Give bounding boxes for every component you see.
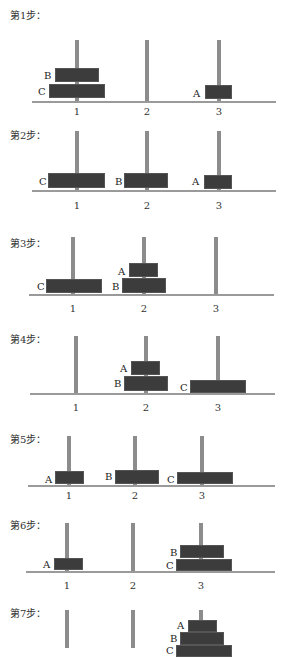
disk-a — [129, 263, 158, 277]
disk-a — [188, 620, 217, 632]
peg-rod — [145, 40, 149, 101]
disk-label: C — [166, 560, 174, 571]
disk-label: B — [44, 70, 51, 81]
disk-c — [48, 173, 105, 188]
step-label: 第3步： — [10, 235, 46, 250]
step-label: 第6步： — [10, 517, 46, 532]
base-line — [26, 571, 275, 573]
disk-label: A — [118, 266, 125, 277]
disk-c — [190, 380, 246, 393]
disk-label: C — [37, 281, 45, 292]
peg-number: 3 — [215, 402, 221, 413]
peg-number: 3 — [199, 490, 205, 501]
disk-b — [115, 470, 159, 484]
disk-label: B — [170, 547, 177, 558]
base-line — [29, 294, 274, 296]
base-line — [32, 101, 276, 103]
disk-label: A — [192, 176, 199, 187]
peg-number: 1 — [70, 303, 76, 314]
peg-number: 2 — [143, 402, 149, 413]
disk-label: A — [45, 474, 52, 485]
peg-rod — [65, 610, 69, 648]
peg-rod — [214, 237, 218, 294]
disk-a — [204, 175, 232, 189]
base-line — [32, 190, 276, 192]
disk-label: B — [114, 378, 121, 389]
disk-b — [124, 173, 168, 188]
disk-label: B — [170, 633, 177, 644]
disk-label: A — [43, 559, 50, 570]
peg-number: 1 — [73, 402, 79, 413]
peg-number: 2 — [141, 303, 147, 314]
base-line — [30, 393, 275, 395]
disk-label: C — [38, 86, 46, 97]
disk-b — [122, 278, 166, 293]
peg-number: 3 — [213, 303, 219, 314]
disk-c — [177, 472, 233, 484]
step-label: 第5步： — [10, 431, 46, 446]
disk-label: C — [180, 382, 188, 393]
disk-b — [55, 68, 99, 82]
step-label: 第7步： — [10, 605, 46, 620]
disk-label: C — [167, 474, 175, 485]
disk-a — [55, 471, 84, 484]
disk-label: B — [115, 176, 122, 187]
disk-label: C — [166, 645, 174, 656]
disk-label: A — [120, 363, 127, 374]
disk-label: B — [105, 471, 112, 482]
peg-number: 2 — [144, 106, 150, 117]
disk-label: C — [39, 176, 47, 187]
peg-rod — [131, 523, 135, 571]
peg-number: 2 — [132, 490, 138, 501]
step-label: 第1步： — [10, 7, 46, 22]
disk-c — [176, 559, 232, 571]
disk-a — [54, 558, 83, 570]
disk-c — [176, 645, 232, 657]
peg-number: 1 — [74, 106, 80, 117]
peg-number: 2 — [144, 200, 150, 211]
peg-number: 3 — [216, 106, 222, 117]
disk-c — [46, 279, 102, 293]
disk-label: A — [177, 620, 184, 631]
disk-label: B — [112, 281, 119, 292]
peg-rod — [131, 610, 135, 648]
base-line — [28, 485, 275, 487]
peg-number: 1 — [74, 200, 80, 211]
disk-label: A — [193, 88, 200, 99]
peg-number: 3 — [198, 580, 204, 591]
peg-number: 1 — [64, 580, 70, 591]
disk-a — [205, 85, 232, 99]
disk-b — [180, 632, 224, 645]
peg-number: 1 — [66, 490, 72, 501]
disk-b — [124, 376, 168, 391]
step-label: 第2步： — [10, 127, 46, 142]
disk-c — [49, 84, 105, 98]
peg-number: 3 — [216, 200, 222, 211]
peg-rod — [74, 336, 78, 393]
disk-b — [180, 545, 224, 558]
step-label: 第4步： — [10, 331, 46, 346]
peg-number: 2 — [130, 580, 136, 591]
disk-a — [131, 361, 160, 375]
